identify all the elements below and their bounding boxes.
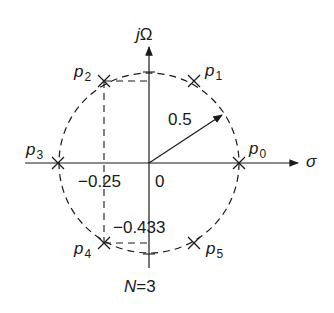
- imag-tick-label: −0.433: [113, 219, 165, 236]
- pole-label-p4: p4: [74, 240, 91, 260]
- origin-label: 0: [155, 173, 164, 190]
- sigma-label: σ: [306, 153, 316, 170]
- pole-label-p1: p1: [205, 62, 222, 82]
- pole-label-p5: p5: [206, 240, 223, 260]
- pole-label-p2: p2: [74, 63, 91, 83]
- diagram-caption: N=3: [124, 278, 156, 295]
- real-tick-label: −0.25: [78, 173, 121, 190]
- radius-label: 0.5: [168, 111, 192, 128]
- pole-label-p0: p0: [249, 140, 266, 160]
- pole-plot: [0, 0, 334, 313]
- pole-label-p3: p3: [26, 141, 43, 161]
- jomega-label: jΩ: [136, 26, 153, 43]
